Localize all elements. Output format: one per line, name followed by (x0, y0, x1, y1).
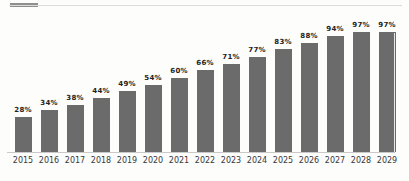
bar (301, 43, 318, 152)
bar (197, 70, 214, 152)
x-tick-wrap: 2020 (143, 152, 163, 181)
x-axis-tick-label: 2016 (39, 157, 59, 165)
bar-group: 97%2028 (352, 0, 370, 181)
bar (223, 64, 240, 152)
x-tick-wrap: 2016 (39, 152, 59, 181)
bar-group: 28%2015 (14, 0, 32, 181)
x-axis-tick-label: 2026 (299, 157, 319, 165)
x-tick-wrap: 2026 (299, 152, 319, 181)
bar-value-label: 49% (118, 80, 135, 88)
bar-value-label: 28% (14, 106, 31, 114)
bar (275, 49, 292, 152)
bar-group: 44%2018 (92, 0, 110, 181)
bar-value-label: 83% (274, 38, 291, 46)
x-axis-tick-label: 2017 (65, 157, 85, 165)
x-axis-tick-label: 2029 (377, 157, 397, 165)
x-axis-tick-label: 2020 (143, 157, 163, 165)
bar-value-label: 66% (196, 59, 213, 67)
bar (327, 36, 344, 152)
x-axis-tick-label: 2022 (195, 157, 215, 165)
bar (249, 57, 266, 152)
bar-group: 34%2016 (40, 0, 58, 181)
x-axis-tick-label: 2018 (91, 157, 111, 165)
x-axis-tick-label: 2028 (351, 157, 371, 165)
bar-group: 54%2020 (144, 0, 162, 181)
bar-group: 49%2019 (118, 0, 136, 181)
x-tick-wrap: 2019 (117, 152, 137, 181)
x-axis-tick-label: 2027 (325, 157, 345, 165)
bar (15, 117, 32, 152)
bar-group: 83%2025 (274, 0, 292, 181)
x-tick-wrap: 2023 (221, 152, 241, 181)
bar-value-label: 44% (92, 87, 109, 95)
bar-value-label: 97% (352, 21, 369, 29)
x-tick-wrap: 2025 (273, 152, 293, 181)
x-axis-line (7, 152, 395, 153)
bar-value-label: 34% (40, 99, 57, 107)
x-tick-wrap: 2028 (351, 152, 371, 181)
bar-group: 60%2021 (170, 0, 188, 181)
x-tick-wrap: 2018 (91, 152, 111, 181)
x-axis-tick-label: 2025 (273, 157, 293, 165)
bar-chart-canvas: 28%201534%201638%201744%201849%201954%20… (0, 0, 409, 181)
bar (41, 110, 58, 152)
right-edge-line (394, 33, 395, 152)
x-axis-tick-label: 2023 (221, 157, 241, 165)
bar (353, 32, 370, 152)
x-tick-wrap: 2029 (377, 152, 397, 181)
bar-value-label: 38% (66, 94, 83, 102)
bar-group: 38%2017 (66, 0, 84, 181)
x-axis-tick-label: 2019 (117, 157, 137, 165)
x-tick-wrap: 2027 (325, 152, 345, 181)
bar-group: 71%2023 (222, 0, 240, 181)
bar-chart-plot-area: 28%201534%201638%201744%201849%201954%20… (14, 0, 396, 181)
bar (93, 98, 110, 152)
bar (119, 91, 136, 152)
bar-value-label: 94% (326, 25, 343, 33)
bar-value-label: 71% (222, 53, 239, 61)
x-axis-tick-label: 2021 (169, 157, 189, 165)
bar-group: 88%2026 (300, 0, 318, 181)
x-tick-wrap: 2015 (13, 152, 33, 181)
bar-value-label: 60% (170, 67, 187, 75)
bar (67, 105, 84, 152)
bar (145, 85, 162, 152)
bar-value-label: 54% (144, 74, 161, 82)
bar-value-label: 88% (300, 32, 317, 40)
bar (171, 78, 188, 152)
bar (379, 32, 396, 152)
bar-value-label: 97% (378, 21, 395, 29)
x-tick-wrap: 2022 (195, 152, 215, 181)
x-tick-wrap: 2021 (169, 152, 189, 181)
bar-group: 66%2022 (196, 0, 214, 181)
x-axis-tick-label: 2015 (13, 157, 33, 165)
x-tick-wrap: 2017 (65, 152, 85, 181)
bar-group: 94%2027 (326, 0, 344, 181)
x-tick-wrap: 2024 (247, 152, 267, 181)
x-axis-tick-label: 2024 (247, 157, 267, 165)
bar-group: 77%2024 (248, 0, 266, 181)
bar-value-label: 77% (248, 46, 265, 54)
